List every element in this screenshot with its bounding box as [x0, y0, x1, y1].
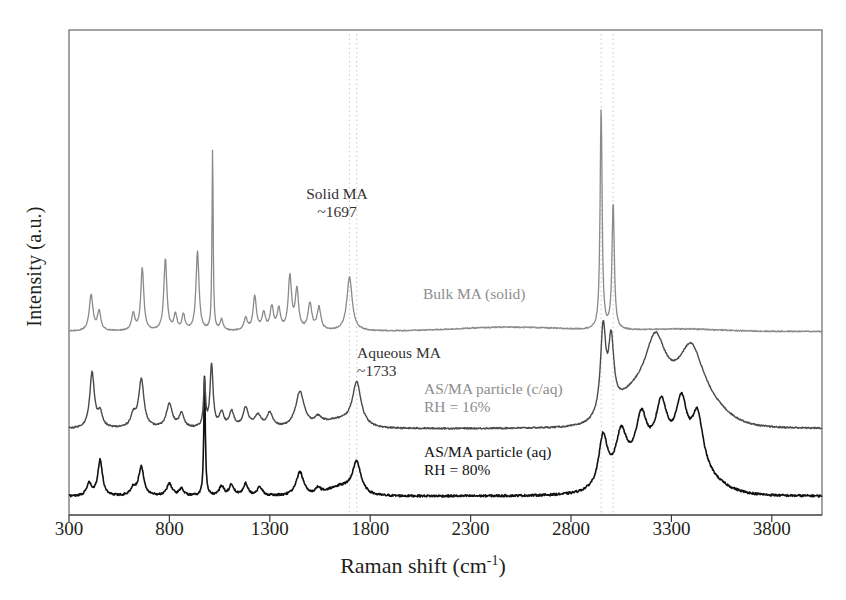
x-axis-label-paren: ) [498, 553, 505, 578]
x-axis-label: Raman shift (cm-1) [0, 553, 846, 579]
x-axis-label-exponent: -1 [487, 553, 499, 568]
annotation-aqueous-ma: Aqueous MA ~1733 [357, 344, 441, 381]
raman-spectra-figure: Intensity (a.u.) Raman shift (cm-1) 3008… [0, 0, 846, 600]
x-tick-label-800: 800 [155, 518, 184, 540]
x-axis-label-text: Raman shift (cm [340, 553, 487, 578]
series-label-as-ma-c-aq-line1: AS/MA particle (c/aq) [424, 380, 563, 398]
x-tick-label-2800: 2800 [552, 518, 590, 540]
x-tick-label-2300: 2300 [452, 518, 490, 540]
annotation-solid-ma: Solid MA ~1697 [306, 185, 368, 222]
x-tick-label-3800: 3800 [753, 518, 791, 540]
series-label-as-ma-c-aq: AS/MA particle (c/aq) RH = 16% [424, 380, 563, 417]
peak-guide-lines [350, 34, 614, 513]
annotation-solid-ma-line1: Solid MA [306, 185, 368, 203]
x-tick-label-1800: 1800 [351, 518, 389, 540]
series-label-bulk-ma: Bulk MA (solid) [423, 285, 525, 303]
y-axis-label: Intensity (a.u.) [23, 147, 46, 387]
x-tick-label-3300: 3300 [652, 518, 690, 540]
x-tick-label-1300: 1300 [251, 518, 289, 540]
annotation-aqueous-ma-line2: ~1733 [357, 362, 441, 380]
series-label-as-ma-aq-line2: RH = 80% [424, 461, 551, 479]
annotation-solid-ma-line2: ~1697 [306, 203, 368, 221]
annotation-aqueous-ma-line1: Aqueous MA [357, 344, 441, 362]
series-label-as-ma-c-aq-line2: RH = 16% [424, 398, 563, 416]
series-label-as-ma-aq: AS/MA particle (aq) RH = 80% [424, 443, 551, 480]
x-tick-label-300: 300 [55, 518, 84, 540]
series-label-as-ma-aq-line1: AS/MA particle (aq) [424, 443, 551, 461]
